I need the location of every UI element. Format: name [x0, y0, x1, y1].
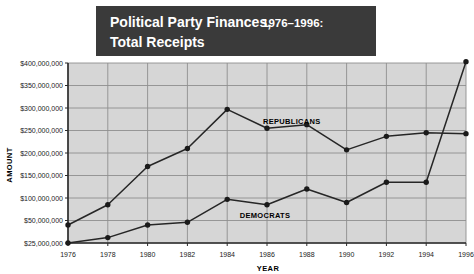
title-line2: Total Receipts — [110, 34, 205, 50]
x-tick-label: 1976 — [60, 251, 76, 258]
data-point-marker — [145, 222, 150, 227]
data-point-marker — [304, 186, 309, 191]
data-point-marker — [185, 220, 190, 225]
data-point-marker — [65, 222, 70, 227]
data-point-marker — [424, 180, 429, 185]
series-label-democrats: DEMOCRATS — [240, 211, 290, 220]
x-tick-label: 1988 — [299, 251, 315, 258]
y-tick-label: $50,000,000 — [24, 217, 63, 224]
y-tick-label: $200,000,000 — [20, 150, 63, 157]
data-point-marker — [105, 235, 110, 240]
series-label-republicans: REPUBLICANS — [263, 117, 320, 126]
x-tick-label: 1994 — [418, 251, 434, 258]
data-point-marker — [105, 202, 110, 207]
data-point-marker — [264, 126, 269, 131]
title-line1-years: 1976–1996: — [262, 17, 323, 29]
y-tick-label: $400,000,000 — [20, 60, 63, 67]
data-point-marker — [264, 202, 269, 207]
x-tick-label: 1992 — [379, 251, 395, 258]
data-point-marker — [463, 59, 468, 64]
title-line1-main: Political Party Finances, — [110, 14, 271, 30]
data-point-marker — [384, 134, 389, 139]
x-tick-label: 1990 — [339, 251, 355, 258]
x-axis-title: YEAR — [257, 264, 280, 273]
x-tick-label: 1996 — [458, 251, 474, 258]
political-party-finances-line-chart: $25,000,000$50,000,000$100,000,000$150,0… — [0, 0, 474, 274]
y-tick-label: $25,000,000 — [24, 240, 63, 247]
chart-figure: $25,000,000$50,000,000$100,000,000$150,0… — [0, 0, 474, 274]
y-tick-label: $350,000,000 — [20, 82, 63, 89]
y-axis-title: AMOUNT — [5, 147, 14, 182]
data-point-marker — [185, 146, 190, 151]
data-point-marker — [344, 147, 349, 152]
data-point-marker — [225, 197, 230, 202]
y-tick-label: $250,000,000 — [20, 127, 63, 134]
data-point-marker — [424, 130, 429, 135]
data-point-marker — [65, 240, 70, 245]
x-tick-label: 1986 — [259, 251, 275, 258]
y-tick-label: $100,000,000 — [20, 195, 63, 202]
data-point-marker — [463, 131, 468, 136]
x-tick-label: 1980 — [140, 251, 156, 258]
data-point-marker — [145, 164, 150, 169]
x-tick-label: 1984 — [219, 251, 235, 258]
title-banner: Political Party Finances, 1976–1996: Tot… — [96, 6, 376, 56]
x-tick-label: 1978 — [100, 251, 116, 258]
data-point-marker — [225, 107, 230, 112]
y-tick-label: $150,000,000 — [20, 172, 63, 179]
y-axis-tick-labels: $25,000,000$50,000,000$100,000,000$150,0… — [20, 60, 68, 247]
y-tick-label: $300,000,000 — [20, 105, 63, 112]
x-tick-label: 1982 — [180, 251, 196, 258]
data-point-marker — [344, 200, 349, 205]
data-point-marker — [384, 180, 389, 185]
